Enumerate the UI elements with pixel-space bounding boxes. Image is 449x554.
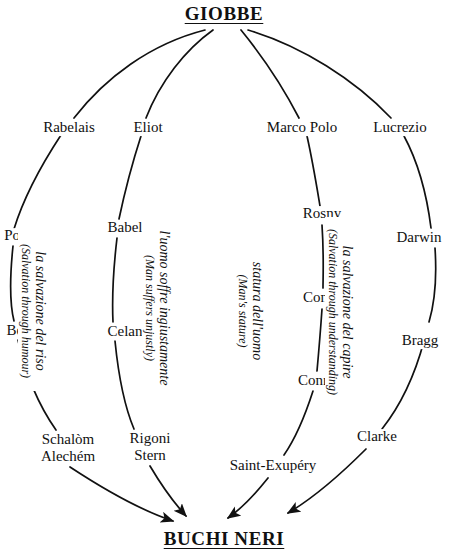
arc-giobbe-to-marcopolo: [241, 30, 299, 118]
arc-giobbe-to-rabelais: [74, 30, 205, 118]
arc-saintexupery-to-buchineri: [228, 478, 268, 518]
node-schalom-line1: Schalòm: [42, 431, 95, 447]
caption-unjustly-main: l'uomo soffre ingiustamente: [157, 231, 172, 386]
node-schalom-alechem: Schalòm Alechém: [39, 431, 97, 465]
caption-understanding-main: la salvazione del capire: [340, 246, 355, 379]
arc-schalom-to-buchineri: [70, 467, 173, 521]
page-title-top: GIOBBE: [182, 3, 267, 25]
arc-babel-to-celan: [113, 238, 117, 322]
arc-bragg-to-clarke: [382, 341, 424, 429]
arc-conrad-upper-to-conrad-lower: [317, 309, 322, 371]
node-babel: Babel: [106, 220, 145, 236]
page-title-bottom: BUCHI NERI: [161, 528, 288, 550]
diagram-canvas: GIOBBE BUCHI NERI Rabelais Porta Belli S…: [0, 0, 449, 554]
node-eliot: Eliot: [131, 120, 164, 136]
caption-humour-sub: (Salvation through humour): [18, 231, 32, 391]
arc-connectors: [0, 0, 449, 554]
arc-rigoni-to-buchineri: [150, 466, 186, 516]
node-rabelais: Rabelais: [41, 120, 97, 136]
node-rigoni-line2: Stern: [134, 447, 166, 463]
node-celan: Celan: [106, 324, 145, 340]
arc-conrad-lower-to-saintexupery: [284, 391, 313, 455]
node-clarke: Clarke: [355, 429, 399, 445]
caption-stature-main: statura dell'uomo: [250, 262, 265, 360]
arc-lucrezio-to-darwin: [404, 136, 431, 228]
arc-celan-to-rigoni: [115, 341, 134, 429]
arc-porta-to-belli: [11, 246, 14, 321]
arc-giobbe-to-lucrezio: [248, 30, 391, 118]
caption-man-suffers-unjustly: l'uomo soffre ingiustamente (Man suffers…: [142, 218, 172, 398]
node-schalom-line2: Alechém: [41, 448, 95, 464]
caption-understanding-sub: (Salvation through understanding): [325, 217, 339, 407]
caption-salvation-through-understanding: la salvazione del capire (Salvation thro…: [325, 217, 355, 407]
caption-salvation-through-humour: la salvazione del riso (Salvation throug…: [18, 231, 48, 391]
node-saint-exupery: Saint-Exupéry: [228, 458, 319, 474]
node-marco-polo: Marco Polo: [265, 120, 339, 136]
node-darwin: Darwin: [395, 230, 444, 246]
caption-unjustly-sub: (Man suffers unjustly): [142, 218, 156, 398]
node-rigoni-line1: Rigoni: [130, 430, 171, 446]
arc-giobbe-to-eliot: [146, 30, 213, 118]
caption-humour-main: la salvazione del riso: [33, 251, 48, 370]
caption-stature-sub: (Man's stature): [235, 246, 249, 376]
arc-eliot-to-babel: [119, 136, 141, 219]
caption-mans-stature: statura dell'uomo (Man's stature): [235, 246, 265, 376]
node-bragg: Bragg: [400, 333, 441, 349]
node-lucrezio: Lucrezio: [371, 120, 428, 136]
arc-rabelais-to-porta: [14, 135, 61, 229]
arc-rosny-to-conrad-upper: [322, 225, 323, 288]
arc-marcopolo-to-rosny: [307, 136, 320, 206]
node-rigoni-stern: Rigoni Stern: [128, 430, 173, 464]
arc-darwin-to-bragg: [429, 248, 436, 322]
